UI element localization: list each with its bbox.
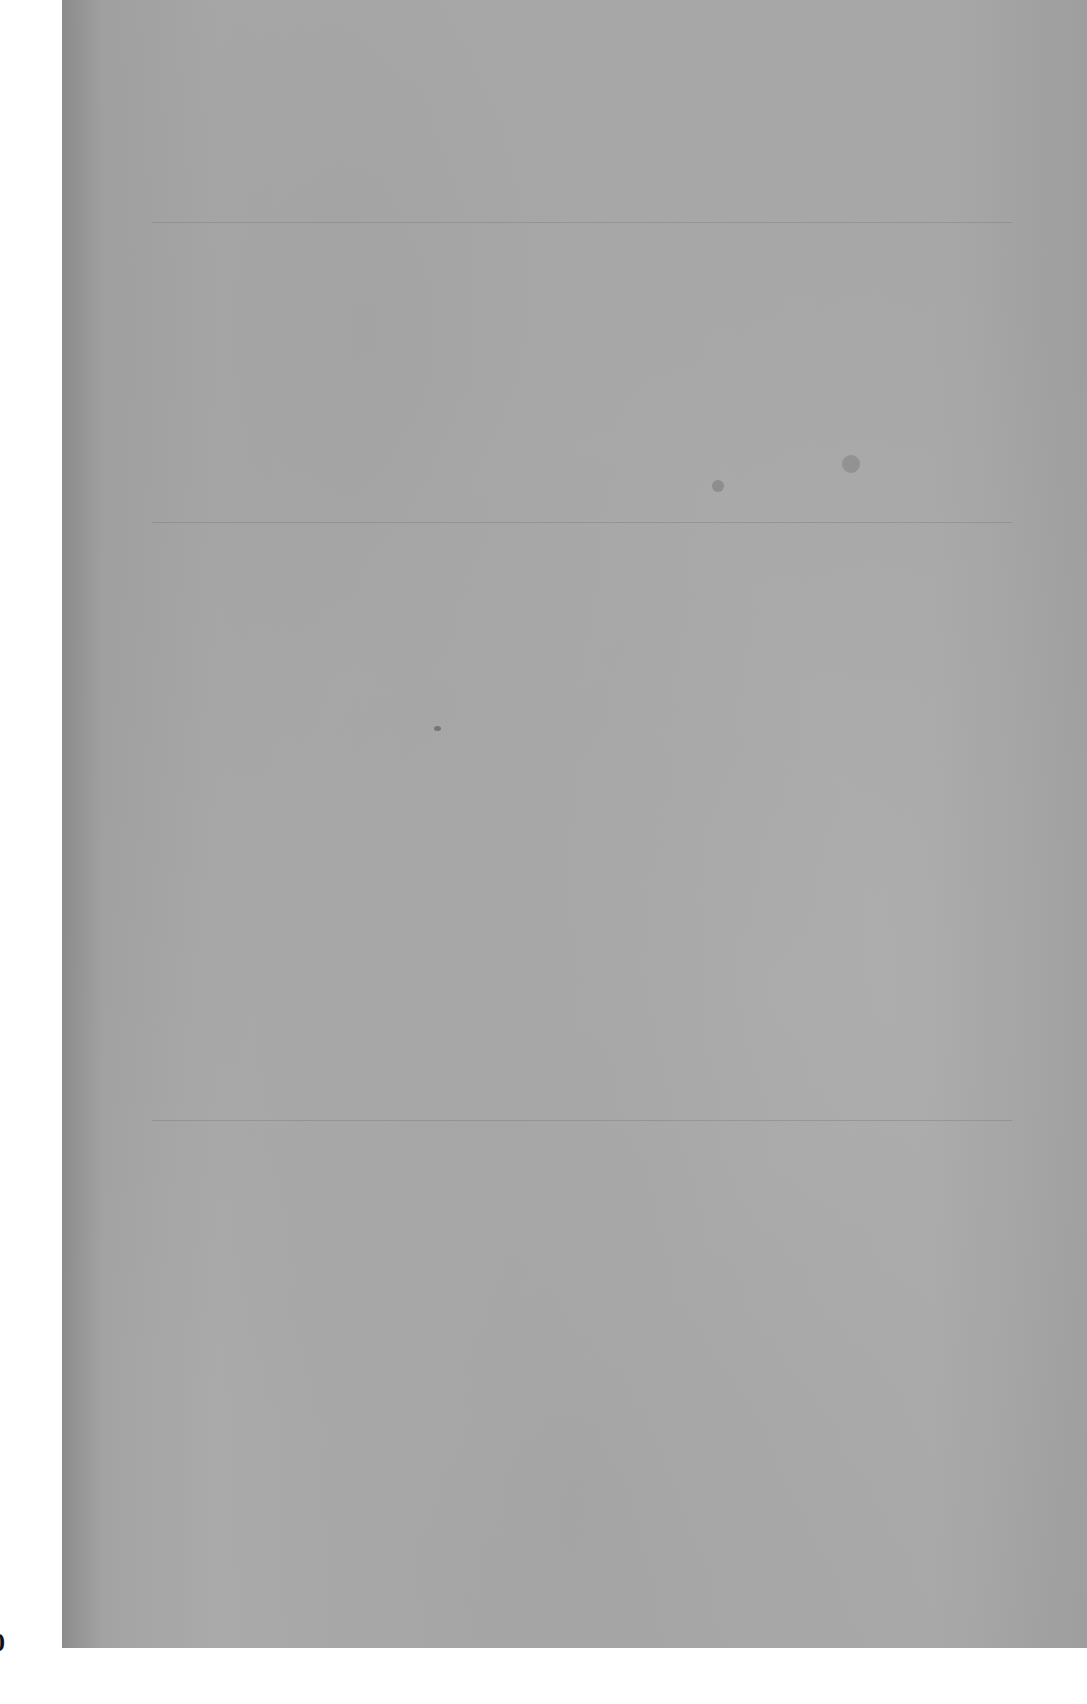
faint-rule-line bbox=[152, 222, 1012, 223]
faint-rule-line bbox=[152, 1120, 1012, 1121]
ink-spot bbox=[842, 455, 860, 473]
page-edge-character: 0 bbox=[0, 1628, 5, 1658]
scanned-blank-page bbox=[62, 0, 1087, 1648]
ink-spot bbox=[712, 480, 724, 492]
ink-spot bbox=[434, 726, 441, 731]
faint-rule-line bbox=[152, 522, 1012, 523]
